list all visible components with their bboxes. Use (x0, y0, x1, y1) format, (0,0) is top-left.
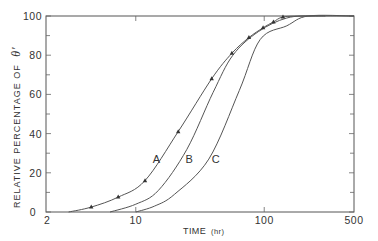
curve-label-c: C (212, 153, 220, 165)
curve-a (69, 16, 326, 212)
curve-label-a: A (153, 153, 161, 165)
x-axis-label-unit: (hr) (211, 227, 224, 236)
y-tick-label: 60 (29, 88, 42, 100)
chart: 020406080100 210100500 ABC TIME (hr) REL… (0, 0, 378, 241)
curves (69, 15, 354, 212)
curve-c (136, 15, 354, 212)
x-tick-label: 100 (255, 214, 274, 226)
x-axis-ticks: 210100500 (44, 16, 364, 226)
y-axis-label: RELATIVE PERCENTAGE OF θ′ (9, 46, 23, 208)
y-axis-label-symbol: θ′ (9, 46, 23, 57)
x-axis-label-main: TIME (183, 226, 206, 236)
y-tick-label: 0 (30, 206, 36, 218)
data-markers (89, 14, 285, 208)
y-tick-label: 20 (29, 167, 42, 179)
x-axis-label: TIME (hr) (183, 226, 224, 236)
plot-border (46, 16, 354, 212)
x-tick-label: 2 (44, 214, 50, 226)
y-tick-label: 100 (23, 10, 42, 22)
curve-b (110, 16, 354, 212)
x-tick-label: 500 (344, 214, 363, 226)
y-axis-label-main: RELATIVE PERCENTAGE OF (12, 64, 22, 208)
y-tick-label: 80 (29, 49, 42, 61)
y-axis-ticks: 020406080100 (23, 10, 354, 218)
x-tick-label: 10 (129, 214, 142, 226)
y-tick-label: 40 (29, 128, 42, 140)
curve-label-b: B (185, 153, 192, 165)
plot-frame (46, 16, 354, 212)
